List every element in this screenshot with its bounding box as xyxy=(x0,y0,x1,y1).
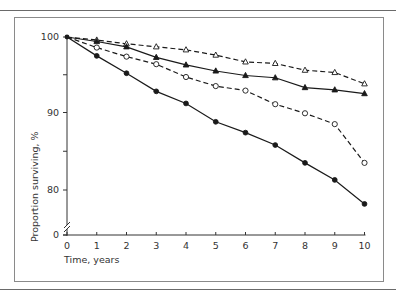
x-tick-label: 4 xyxy=(183,240,189,251)
y-tick-100: 100 xyxy=(41,31,59,42)
x-tick-label: 8 xyxy=(302,240,308,251)
data-point-circle xyxy=(124,54,129,59)
data-point-triangle xyxy=(302,67,308,72)
chart-axes: 012345678910 xyxy=(63,35,371,251)
data-point-circle xyxy=(332,178,337,183)
data-point-circle xyxy=(332,122,337,127)
x-tick-label: 1 xyxy=(94,240,100,251)
data-point-circle xyxy=(273,143,278,148)
x-axis-title: Time, years xyxy=(63,254,119,265)
x-tick-label: 6 xyxy=(242,240,248,251)
data-point-circle xyxy=(302,111,307,116)
data-point-triangle xyxy=(183,47,189,52)
data-point-circle xyxy=(213,119,218,124)
x-tick-label: 10 xyxy=(358,240,370,251)
x-tick-label: 9 xyxy=(332,240,338,251)
data-point-circle xyxy=(94,45,99,50)
data-point-circle xyxy=(94,53,99,58)
data-point-circle xyxy=(303,160,308,165)
data-point-circle xyxy=(273,102,278,107)
x-tick-label: 2 xyxy=(123,240,129,251)
data-point-circle xyxy=(362,202,367,207)
x-tick-label: 5 xyxy=(213,240,219,251)
y-tick-80: 80 xyxy=(47,184,59,195)
data-point-circle xyxy=(243,88,248,93)
data-point-circle xyxy=(362,160,367,165)
data-point-circle xyxy=(183,74,188,79)
data-point-circle xyxy=(154,62,159,67)
y-tick-0: 0 xyxy=(53,229,59,240)
series-filled-circle xyxy=(67,37,367,206)
survival-chart: 012345678910 100 90 80 0 Time, years Pro… xyxy=(0,0,396,295)
data-point-triangle xyxy=(153,44,159,49)
data-point-circle xyxy=(154,89,159,94)
y-axis-title: Proportion surviving, % xyxy=(29,131,40,242)
origin-point xyxy=(65,35,70,40)
data-point-circle xyxy=(184,101,189,106)
data-point-circle xyxy=(124,71,129,76)
data-point-circle xyxy=(213,83,218,88)
x-tick-label: 7 xyxy=(272,240,278,251)
y-tick-90: 90 xyxy=(47,107,59,118)
x-tick-label: 3 xyxy=(153,240,159,251)
x-tick-label: 0 xyxy=(64,240,70,251)
chart-series xyxy=(65,35,368,207)
data-point-circle xyxy=(243,130,248,135)
